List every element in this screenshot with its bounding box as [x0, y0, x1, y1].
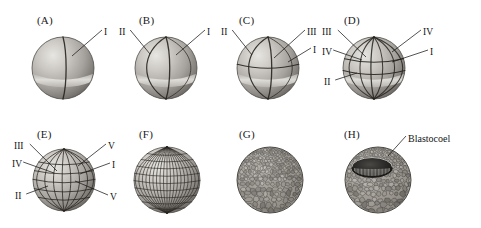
cleavage-label-e-v: V: [110, 192, 117, 202]
cleavage-label-c-iii: III: [307, 27, 317, 37]
cleavage-label-c-ii: II: [221, 27, 227, 37]
cleavage-label-d-iii: III: [322, 27, 332, 37]
panel-letter-e: (E): [37, 128, 52, 140]
cleavage-label-e-iii: III: [14, 141, 24, 151]
panel-letter-f: (F): [139, 128, 153, 140]
cleavage-label-e-ii: II: [15, 191, 21, 201]
cleavage-label-e-i: I: [112, 160, 115, 170]
panel-letter-a: (A): [37, 14, 53, 26]
cleavage-label-a-i: I: [104, 27, 107, 37]
cleavage-label-d-i: I: [430, 47, 433, 57]
cleavage-label-e-v: V: [108, 141, 115, 151]
cleavage-label-b-ii: II: [119, 27, 125, 37]
cleavage-label-d-iv: IV: [322, 47, 332, 57]
panel-letter-c: (C): [239, 14, 254, 26]
panel-letter-h: (H): [344, 128, 360, 140]
blastocoel-label: Blastocoel: [408, 133, 450, 144]
cleavage-label-b-i: I: [207, 27, 210, 37]
panel-letter-b: (B): [139, 14, 154, 26]
cleavage-label-e-iv: IV: [12, 159, 22, 169]
cleavage-label-d-ii: II: [324, 77, 330, 87]
panel-letter-d: (D): [344, 14, 360, 26]
panel-letter-g: (G): [239, 128, 255, 140]
cleavage-label-d-iv: IV: [423, 27, 433, 37]
embryo-cleavage-figure: (A)I(B)III(C)IIIIII(D)IIIIVIIIVI(E)IIIIV…: [0, 0, 481, 228]
cleavage-label-c-i: I: [313, 45, 316, 55]
